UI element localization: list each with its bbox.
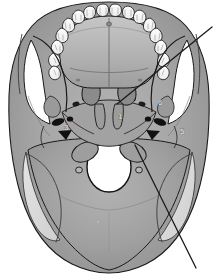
incisive-foramen (106, 22, 111, 26)
greater-palatine-foramen-right (138, 78, 142, 81)
label-number-1: 1 (118, 112, 123, 121)
tooth-canine-left (72, 10, 85, 24)
label-number-6: 6 (158, 98, 163, 107)
tooth-canine-right (133, 10, 146, 24)
tooth-incisor-left-lateral (84, 6, 96, 19)
label-number-3: 3 (64, 123, 69, 132)
skull-figure: 1 5 6 3 (0, 0, 218, 276)
greater-palatine-foramen-left (76, 78, 80, 81)
carotid-canal-right (145, 116, 151, 121)
skull-inferior-view-illustration: 1 5 6 3 (0, 0, 218, 276)
condylar-canal-left (76, 167, 83, 173)
carotid-canal-left (67, 116, 73, 121)
tooth-incisor-left-central (97, 4, 109, 17)
tooth-incisor-right-central (110, 4, 122, 17)
label-number-5: 5 (180, 127, 185, 136)
tooth-incisor-right-lateral (123, 6, 135, 19)
condylar-canal-right (136, 167, 143, 173)
occipital-texture-dot (97, 221, 99, 223)
